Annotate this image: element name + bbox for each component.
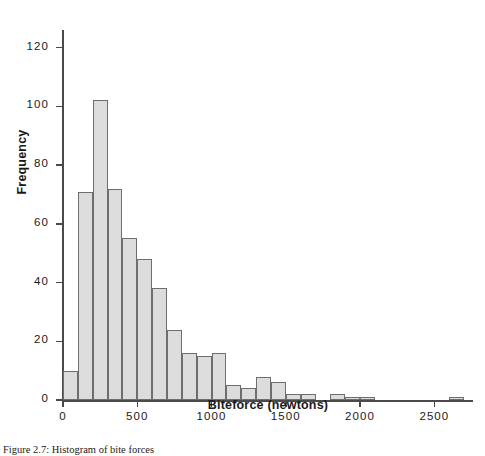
histogram-bar xyxy=(212,353,227,400)
histogram-bar xyxy=(122,238,137,400)
y-axis-tick xyxy=(56,282,63,283)
figure-container: Frequency 020406080100120 05001000150020… xyxy=(0,0,485,456)
histogram-bar xyxy=(63,371,78,400)
histogram-bar xyxy=(167,330,182,400)
histogram-bar xyxy=(93,100,108,400)
x-axis-title: Biteforce (newtons) xyxy=(63,398,473,412)
histogram-bar xyxy=(256,377,271,400)
y-axis-tick xyxy=(56,106,63,107)
y-axis-tick-label: 20 xyxy=(5,333,49,345)
histogram-bar xyxy=(137,259,152,400)
y-axis-tick-label: 100 xyxy=(5,98,49,110)
histogram-bar xyxy=(152,288,167,400)
y-axis-tick-label: 60 xyxy=(5,216,49,228)
figure-caption: Figure 2.7: Histogram of bite forces xyxy=(3,444,473,455)
y-axis-tick xyxy=(56,223,63,224)
histogram-bar xyxy=(182,353,197,400)
y-axis-line xyxy=(62,30,64,400)
y-axis-tick-label: 80 xyxy=(5,157,49,169)
y-axis-tick xyxy=(56,341,63,342)
y-axis-tick xyxy=(56,47,63,48)
y-axis-tick-label: 0 xyxy=(5,392,49,404)
y-axis-tick-label: 120 xyxy=(5,40,49,52)
y-axis-tick xyxy=(56,164,63,165)
y-axis-tick-label: 40 xyxy=(5,275,49,287)
histogram-bar xyxy=(108,189,123,400)
plot-area: 020406080100120 05001000150020002500 xyxy=(63,30,473,400)
histogram-bar xyxy=(197,356,212,400)
histogram-bar xyxy=(78,192,93,400)
